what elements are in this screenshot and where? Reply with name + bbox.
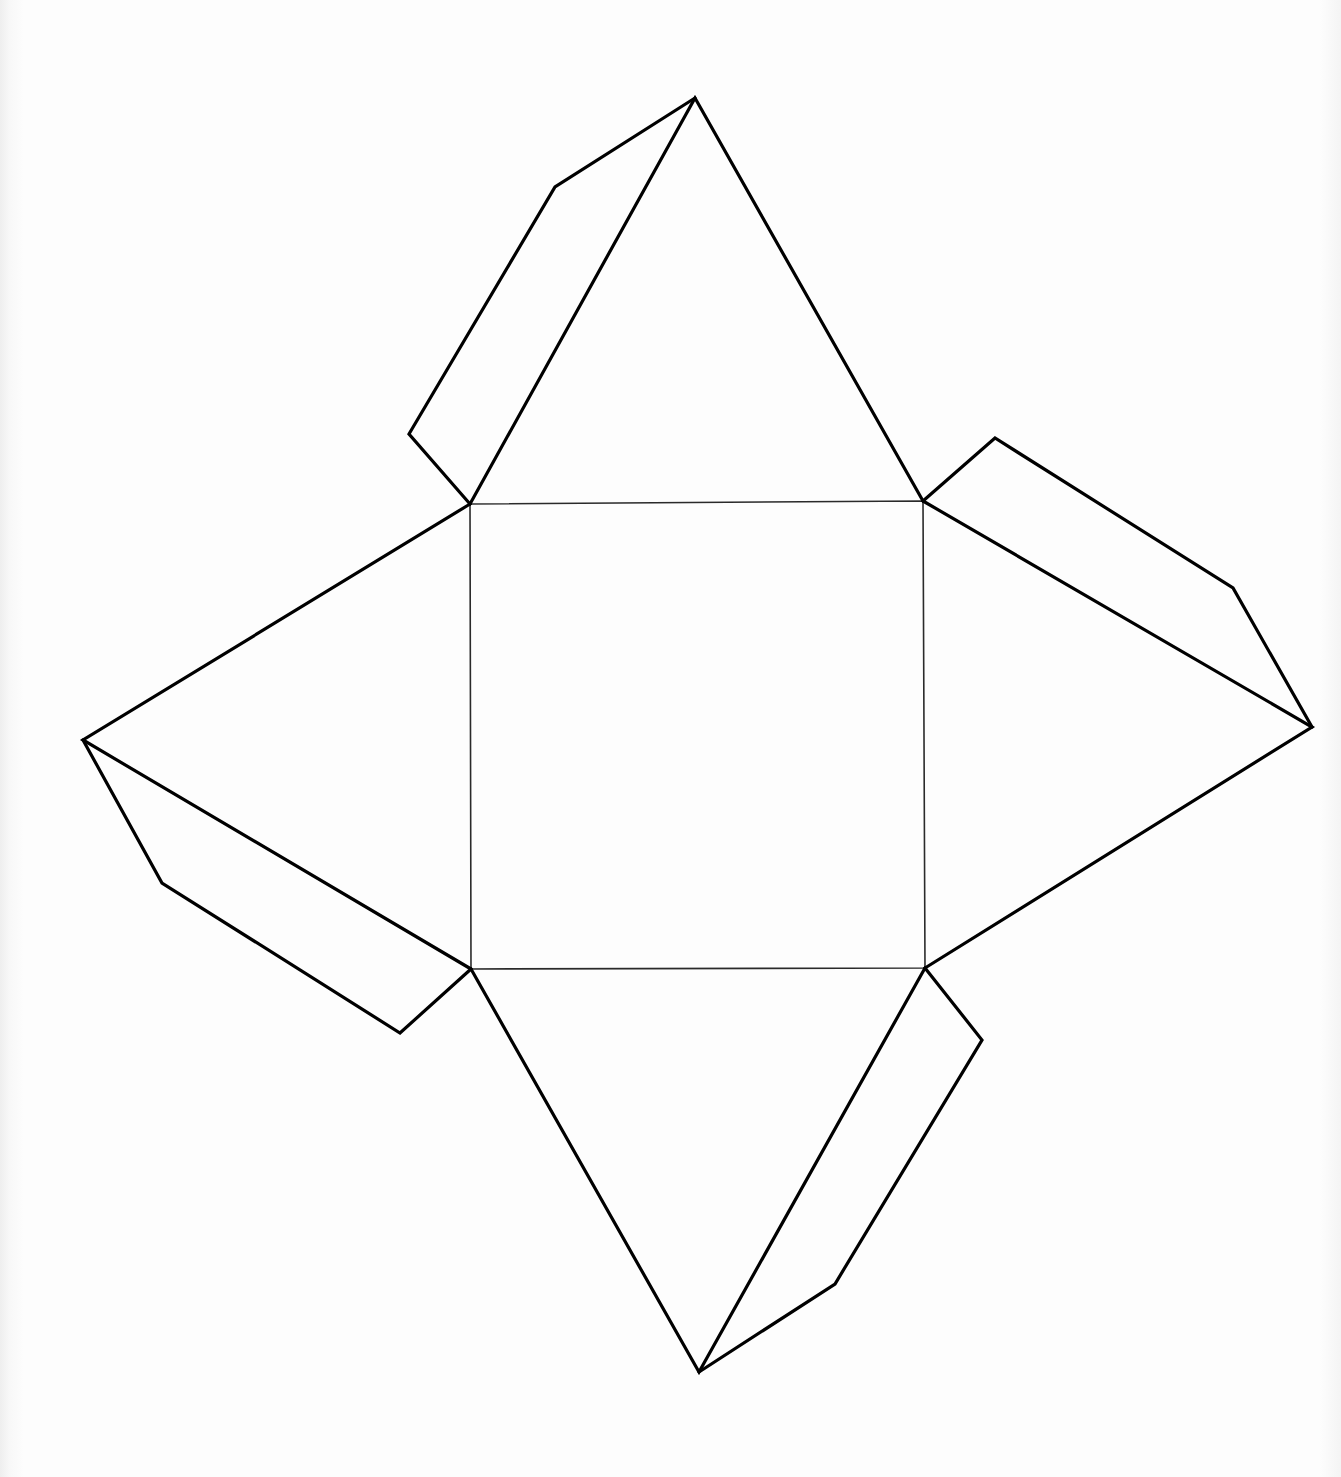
bottom-right-glue-tab (699, 968, 982, 1372)
left-face (83, 504, 471, 969)
bottom-face (471, 968, 925, 1372)
right-face (923, 501, 1312, 968)
top-face (470, 98, 923, 504)
right-glue-tab (923, 438, 1312, 727)
top-left-glue-tab (409, 98, 695, 504)
pyramid-net-diagram (0, 0, 1341, 1477)
left-glue-tab (83, 740, 471, 1033)
paper-page (0, 0, 1341, 1477)
base-square (470, 501, 925, 969)
